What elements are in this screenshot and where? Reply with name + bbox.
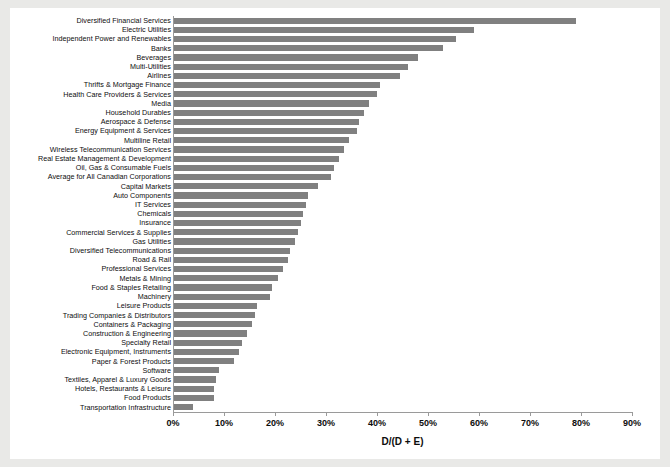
- bar[interactable]: [173, 404, 193, 410]
- bar[interactable]: [173, 119, 359, 125]
- bar[interactable]: [173, 165, 334, 171]
- bar-row: Beverages: [10, 53, 660, 62]
- bar-track: [173, 246, 660, 255]
- bar[interactable]: [173, 312, 255, 318]
- bar-track: [173, 255, 660, 264]
- bar-row: Multi-Utilities: [10, 62, 660, 71]
- bar[interactable]: [173, 73, 400, 79]
- bar-row: Specialty Retail: [10, 338, 660, 347]
- category-label: Textiles, Apparel & Luxury Goods: [0, 375, 171, 384]
- bar[interactable]: [173, 395, 214, 401]
- bar[interactable]: [173, 146, 344, 152]
- category-label: Containers & Packaging: [0, 320, 171, 329]
- bar-row: Containers & Packaging: [10, 320, 660, 329]
- bar[interactable]: [173, 294, 270, 300]
- bar[interactable]: [173, 211, 303, 217]
- category-label: Paper & Forest Products: [0, 357, 171, 366]
- bar[interactable]: [173, 27, 474, 33]
- category-label: Hotels, Restaurants & Leisure: [0, 384, 171, 393]
- bar-track: [173, 90, 660, 99]
- bar-track: [173, 209, 660, 218]
- bar[interactable]: [173, 82, 380, 88]
- bar[interactable]: [173, 266, 283, 272]
- bar[interactable]: [173, 303, 257, 309]
- bar[interactable]: [173, 284, 272, 290]
- bar-row: Banks: [10, 44, 660, 53]
- bar-track: [173, 62, 660, 71]
- bar[interactable]: [173, 340, 242, 346]
- bar[interactable]: [173, 18, 576, 24]
- bar-row: Average for All Canadian Corporations: [10, 172, 660, 181]
- bar-track: [173, 172, 660, 181]
- bar[interactable]: [173, 202, 306, 208]
- category-label: Machinery: [0, 292, 171, 301]
- bar[interactable]: [173, 257, 288, 263]
- category-label: Real Estate Management & Development: [0, 154, 171, 163]
- x-tick-label: 80%: [572, 418, 590, 428]
- x-tick-mark: [581, 412, 582, 416]
- category-label: Leisure Products: [0, 301, 171, 310]
- bar[interactable]: [173, 349, 239, 355]
- x-tick-mark: [530, 412, 531, 416]
- category-label: Specialty Retail: [0, 338, 171, 347]
- bar-row: Diversified Financial Services: [10, 16, 660, 25]
- bar[interactable]: [173, 128, 357, 134]
- bar[interactable]: [173, 45, 443, 51]
- category-label: Transportation Infrastructure: [0, 403, 171, 412]
- category-label: Chemicals: [0, 209, 171, 218]
- bar-track: [173, 338, 660, 347]
- bar-row: Machinery: [10, 292, 660, 301]
- category-label: Software: [0, 366, 171, 375]
- bar-track: [173, 366, 660, 375]
- category-label: Metals & Mining: [0, 274, 171, 283]
- bar[interactable]: [173, 321, 252, 327]
- bar[interactable]: [173, 367, 219, 373]
- bar-row: Household Durables: [10, 108, 660, 117]
- bar[interactable]: [173, 100, 369, 106]
- x-tick-mark: [479, 412, 480, 416]
- bar[interactable]: [173, 110, 364, 116]
- bar[interactable]: [173, 137, 349, 143]
- x-tick-label: 30%: [317, 418, 335, 428]
- bar-row: Health Care Providers & Services: [10, 90, 660, 99]
- bar-track: [173, 375, 660, 384]
- bar-row: Food & Staples Retailing: [10, 283, 660, 292]
- x-axis-line: [173, 412, 632, 413]
- x-tick-mark: [428, 412, 429, 416]
- bar-track: [173, 25, 660, 34]
- category-label: Road & Rail: [0, 255, 171, 264]
- category-label: Capital Markets: [0, 182, 171, 191]
- bar-track: [173, 357, 660, 366]
- bar[interactable]: [173, 192, 308, 198]
- x-tick-mark: [326, 412, 327, 416]
- bar[interactable]: [173, 275, 278, 281]
- bar[interactable]: [173, 376, 216, 382]
- bar[interactable]: [173, 358, 234, 364]
- bar[interactable]: [173, 36, 456, 42]
- bar-track: [173, 264, 660, 273]
- bar-track: [173, 384, 660, 393]
- bar-track: [173, 108, 660, 117]
- bar-row: Software: [10, 366, 660, 375]
- x-tick-label: 70%: [521, 418, 539, 428]
- category-label: Beverages: [0, 53, 171, 62]
- bar[interactable]: [173, 220, 301, 226]
- bar[interactable]: [173, 174, 331, 180]
- category-label: Multi-Utilities: [0, 62, 171, 71]
- category-label: Media: [0, 99, 171, 108]
- bar[interactable]: [173, 248, 290, 254]
- bar[interactable]: [173, 330, 247, 336]
- bar[interactable]: [173, 91, 377, 97]
- bar[interactable]: [173, 183, 318, 189]
- bar[interactable]: [173, 238, 295, 244]
- category-label: Household Durables: [0, 108, 171, 117]
- bar[interactable]: [173, 386, 214, 392]
- bar-row: Electric Utilities: [10, 25, 660, 34]
- bar[interactable]: [173, 229, 298, 235]
- bar[interactable]: [173, 156, 339, 162]
- bar[interactable]: [173, 64, 408, 70]
- category-label: Electronic Equipment, Instruments: [0, 347, 171, 356]
- x-tick-label: 60%: [470, 418, 488, 428]
- category-label: Trading Companies & Distributors: [0, 311, 171, 320]
- bar[interactable]: [173, 54, 418, 60]
